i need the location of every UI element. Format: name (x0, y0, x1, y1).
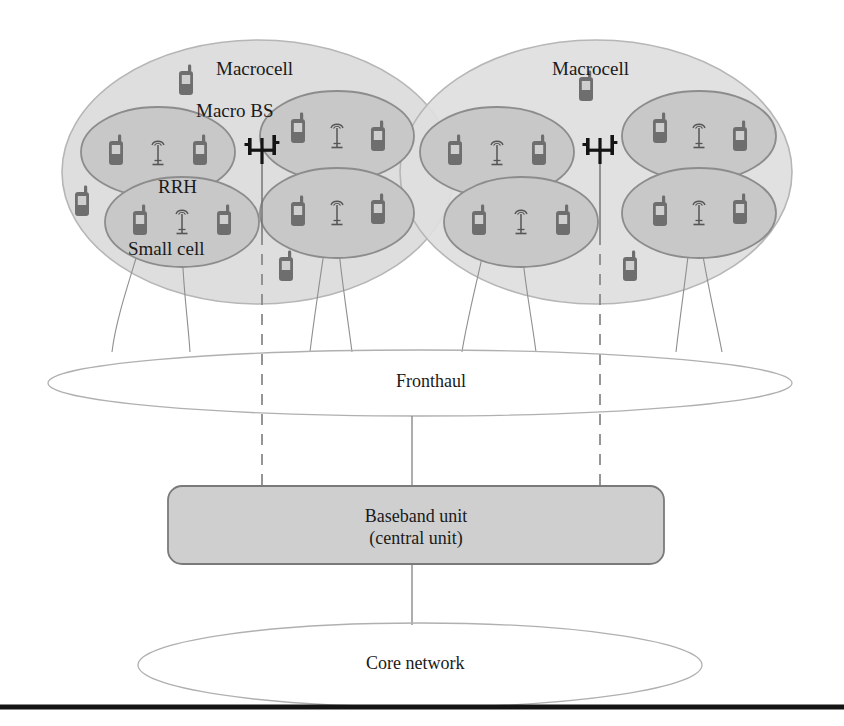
label-small-cell: Small cell (128, 238, 205, 260)
diagram-canvas: Macrocell Macro BS RRH Small cell Macroc… (0, 0, 844, 726)
network-architecture-diagram (0, 0, 844, 726)
label-rrh: RRH (158, 176, 197, 198)
small-cell-4 (260, 168, 414, 258)
small-cell-6 (444, 177, 598, 267)
small-cell-8 (622, 168, 776, 258)
label-baseband-unit-line2: (central unit) (168, 528, 664, 550)
label-macro-bs: Macro BS (196, 100, 274, 122)
label-baseband-unit: Baseband unit (central unit) (168, 506, 664, 550)
label-baseband-unit-line1: Baseband unit (168, 506, 664, 528)
label-macrocell-left: Macrocell (216, 58, 293, 80)
label-core-network: Core network (366, 653, 464, 674)
label-macrocell-right: Macrocell (552, 58, 629, 80)
label-fronthaul: Fronthaul (396, 371, 466, 392)
